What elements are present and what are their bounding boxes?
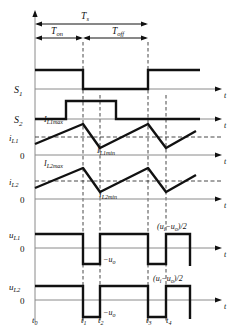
annotation-il2-max: IL2max	[43, 159, 63, 169]
waveform-s2	[35, 101, 200, 119]
axis-s1-time-label: t	[224, 91, 227, 100]
annotation-il2-min: IL2min	[98, 190, 117, 200]
label-ul1-zero: 0	[20, 244, 25, 254]
annotation-ul2-high-tail: )/2	[173, 274, 183, 283]
annotation-il2-min-sub: L2min	[101, 194, 117, 200]
annotation-il1-max: IL1max	[43, 115, 63, 125]
label-ul2-zero: 0	[20, 296, 25, 306]
waveform-il2	[35, 168, 196, 192]
waveform-svg: Ts Ton Toff t S1 t S2 t iL1 0 IL1max IL1…	[0, 0, 250, 328]
annotation-ul2-low-sub: o	[112, 312, 115, 318]
time-marker-t3-sub: 3	[147, 320, 151, 326]
label-toff-sub: off	[117, 30, 125, 37]
label-il2-sub: L2	[11, 181, 20, 188]
axis-ul2-time-label: t	[224, 302, 227, 311]
label-ul1-sub: L1	[13, 234, 21, 241]
axis-ul1-arrowhead	[215, 245, 222, 250]
axis-s2-arrowhead	[215, 116, 222, 121]
axis-s2-time-label: t	[224, 121, 227, 130]
label-s1: S1	[14, 84, 23, 98]
annotation-il2-max-sub: L2max	[46, 163, 64, 169]
label-ton: Ton	[51, 26, 63, 37]
annotation-il1-min-sub: L1min	[99, 150, 115, 156]
left-axis-arrowhead	[32, 10, 37, 17]
label-s2: S2	[14, 114, 23, 128]
axis-il1-arrowhead	[215, 152, 222, 157]
label-ul1: uL1	[9, 230, 20, 241]
annotation-ul2-high: (ui−uo)/2	[153, 274, 183, 284]
label-ul2: uL2	[9, 282, 21, 293]
time-marker-t0-sub: 0	[34, 320, 37, 326]
axis-il2-time-label: t	[224, 201, 227, 210]
period-bracket-toff	[83, 36, 148, 41]
label-ts-sub: s	[86, 15, 89, 22]
axis-il1-time-label: t	[224, 157, 227, 166]
annotation-ul1-low: −uo	[103, 255, 115, 265]
label-il2: iL2	[9, 177, 19, 188]
time-marker-t1-sub: 1	[83, 320, 86, 326]
label-il1: iL1	[9, 133, 18, 144]
label-s2-sub: 2	[19, 120, 23, 128]
annotation-il1-max-sub: L1max	[46, 119, 64, 125]
time-marker-t2-sub: 2	[100, 320, 103, 326]
label-il1-zero: 0	[20, 151, 25, 161]
time-marker-t4-sub: 4	[168, 320, 171, 326]
annotation-ul2-high-mid: −u	[161, 274, 170, 283]
annotation-ul1-low-sub: o	[112, 259, 115, 265]
label-s1-sub: 1	[19, 90, 23, 98]
waveform-s1	[35, 70, 200, 89]
axis-ul2-arrowhead	[215, 297, 222, 302]
waveform-il1	[35, 124, 196, 148]
label-ts: Ts	[81, 11, 89, 22]
annotation-il1-min: IL1min	[96, 146, 115, 156]
label-il1-sub: L1	[11, 137, 19, 144]
waveform-figure: Ts Ton Toff t S1 t S2 t iL1 0 IL1max IL1…	[0, 0, 250, 328]
label-toff: Toff	[112, 26, 125, 37]
annotation-ul1-high-tail: )/2	[177, 222, 187, 231]
time-marker-t4: t4	[166, 315, 171, 326]
annotation-ul1-high-mid: −u	[165, 222, 174, 231]
annotation-ul2-low: −uo	[103, 308, 115, 318]
axis-il2-arrowhead	[215, 196, 222, 201]
axis-ul1-time-label: t	[224, 250, 227, 259]
annotation-ul1-high: (ui−uo)/2	[157, 222, 187, 232]
label-il2-zero: 0	[20, 195, 25, 205]
axis-s1-arrowhead	[215, 86, 222, 91]
label-ul2-sub: L2	[13, 286, 22, 293]
label-ton-sub: on	[56, 30, 63, 37]
